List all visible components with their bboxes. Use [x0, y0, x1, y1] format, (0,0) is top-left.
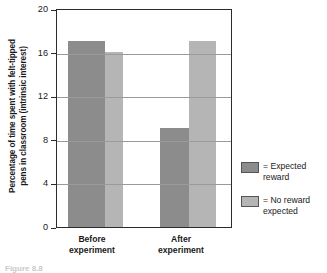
- bar-before-no-reward-expected: [105, 52, 123, 227]
- y-axis-title: Percentage of time spent with felt-tippe…: [7, 2, 29, 230]
- legend-item-no-reward-expected: = No reward expected: [241, 195, 327, 216]
- legend-swatch-expected-reward: [241, 162, 259, 173]
- plot-inner: [57, 10, 231, 227]
- bar-after-no-reward-expected: [189, 41, 216, 227]
- figure-caption: Figure 8.8: [5, 264, 43, 273]
- y-axis-title-wrap: Percentage of time spent with felt-tippe…: [0, 0, 36, 232]
- gridline-4: [57, 184, 231, 185]
- x-axis-label-before-experiment: Before experiment: [62, 234, 122, 255]
- bar-before-expected-reward: [68, 41, 105, 227]
- legend-label-expected-reward: = Expected reward: [263, 161, 306, 182]
- x-axis-label-after-experiment: After experiment: [151, 234, 211, 255]
- legend-swatch-no-reward-expected: [241, 196, 259, 207]
- gridline-8: [57, 141, 231, 142]
- legend-item-expected-reward: = Expected reward: [241, 161, 327, 182]
- legend: = Expected reward = No reward expected: [241, 161, 327, 229]
- gridline-16: [57, 54, 231, 55]
- gridline-12: [57, 97, 231, 98]
- plot-area: [56, 9, 232, 228]
- bar-after-expected-reward: [160, 128, 189, 227]
- legend-label-no-reward-expected: = No reward expected: [263, 195, 310, 216]
